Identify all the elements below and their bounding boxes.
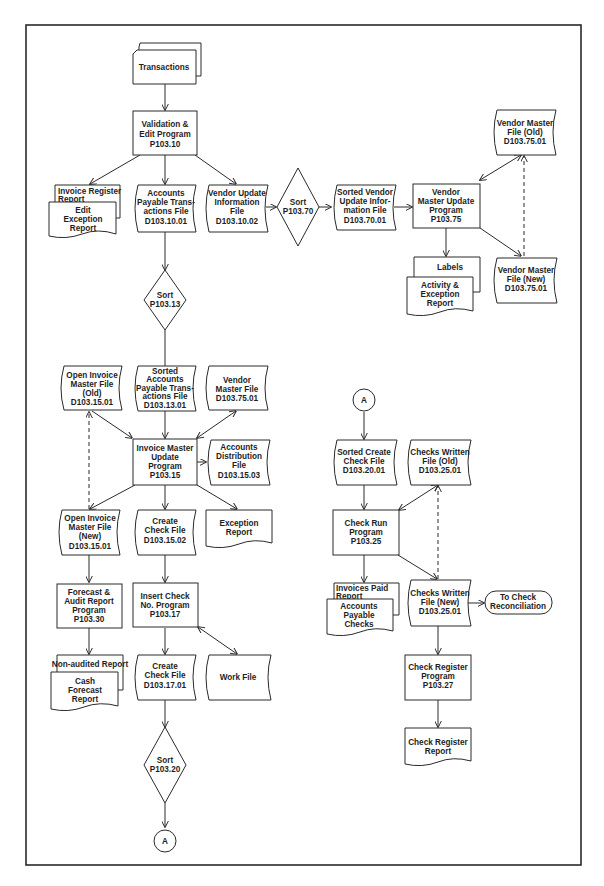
node-label-line: Accounts bbox=[340, 602, 378, 611]
node-label-line: Checks bbox=[344, 620, 374, 629]
node-label-line: D103.13.01 bbox=[144, 401, 187, 410]
node-label-line: Check Register bbox=[408, 663, 468, 672]
node-ap-transactions-file: Accounts Payable Trans- actions File D10… bbox=[135, 185, 196, 232]
node-label-line: Exception bbox=[63, 215, 102, 224]
node-label-line: File bbox=[232, 461, 247, 470]
node-label-line: A bbox=[361, 396, 367, 405]
node-activity-exception-report: Activity & Exception Report bbox=[407, 277, 473, 316]
node-label-line: P103.25 bbox=[351, 537, 382, 546]
node-label-line: Check Register bbox=[408, 738, 468, 747]
node-label-line: File bbox=[230, 207, 245, 216]
node-accounts-distribution-file: Accounts Distribution File D103.15.03 bbox=[208, 440, 270, 485]
node-open-invoice-master-new: Open Invoice Master File (New) D103.15.0… bbox=[59, 510, 120, 555]
node-label-line: Check Run bbox=[345, 519, 388, 528]
node-label-line: actions File bbox=[142, 392, 187, 401]
node-label-line: Vendor Master bbox=[498, 266, 555, 275]
node-label-line: Checks Written bbox=[410, 448, 469, 457]
node-label-line: Program bbox=[349, 528, 383, 537]
node-sorted-vendor-update-file: Sorted Vendor Update Infor- mation File … bbox=[334, 185, 396, 230]
node-label-line: Check File bbox=[344, 457, 385, 466]
node-label-line: (Old) bbox=[82, 389, 101, 398]
node-label-line: Accounts bbox=[220, 443, 258, 452]
node-vendor-master-file-new: Vendor Master File (New) D103.75.01 bbox=[494, 258, 557, 303]
node-check-run-program: Check Run Program P103.25 bbox=[333, 510, 399, 555]
node-label-line: P103.20 bbox=[150, 765, 181, 774]
node-check-register-report: Check Register Report bbox=[405, 728, 471, 766]
node-label-line: Update Infor- bbox=[340, 197, 391, 206]
node-label-line: Sorted Create bbox=[337, 448, 391, 457]
node-label-line: P103.13 bbox=[150, 300, 181, 309]
node-label-line: D103.17.01 bbox=[144, 681, 187, 690]
node-label-line: Edit bbox=[75, 206, 91, 215]
node-label-line: No. Program bbox=[140, 601, 189, 610]
node-label-line: P103.10 bbox=[150, 140, 181, 149]
node-sorted-create-check-file: Sorted Create Check File D103.20.01 bbox=[334, 440, 397, 485]
accounts-payable-flowchart: Transactions Validation & Edit Program P… bbox=[0, 0, 604, 886]
node-vendor-master-update-program: Vendor Master Update Program P103.75 bbox=[413, 184, 480, 228]
node-label-line: Validation & bbox=[142, 120, 189, 129]
node-sort-p10320: Sort P103.20 bbox=[144, 727, 186, 803]
node-label-line: D103.25.01 bbox=[419, 607, 462, 616]
node-validation-program: Validation & Edit Program P103.10 bbox=[133, 111, 197, 155]
node-edit-exception-report: Edit Exception Report bbox=[49, 202, 116, 238]
node-open-invoice-master-old: Open Invoice Master File (Old) D103.15.0… bbox=[61, 366, 122, 410]
node-label-line: Forecast & bbox=[68, 588, 110, 597]
node-label-line: Vendor Master bbox=[497, 119, 554, 128]
node-forecast-audit-program: Forecast & Audit Report Program P103.30 bbox=[57, 584, 122, 628]
node-sort-p10313: Sort P103.13 bbox=[144, 270, 186, 330]
node-label-line: Sort bbox=[157, 291, 174, 300]
node-label-line: Program bbox=[421, 672, 455, 681]
node-label-line: Open Invoice bbox=[66, 371, 118, 380]
node-label-line: actions File bbox=[143, 207, 188, 216]
node-label-line: Exception bbox=[420, 290, 459, 299]
node-label-line: Insert Check bbox=[140, 592, 190, 601]
node-label-line: Forecast bbox=[68, 686, 102, 695]
node-label-line: P103.15 bbox=[150, 471, 181, 480]
node-invoice-master-update-program: Invoice Master Update Program P103.15 bbox=[133, 439, 197, 485]
node-label-line: Cash bbox=[75, 677, 95, 686]
node-vendor-update-info-file: Vendor Update Information File D103.10.0… bbox=[206, 185, 268, 232]
node-label-line: A bbox=[162, 837, 168, 846]
node-label-line: File (New) bbox=[421, 598, 460, 607]
node-label-line: Sort bbox=[157, 756, 174, 765]
node-label-line: Edit Program bbox=[139, 130, 190, 139]
node-label-line: D103.25.01 bbox=[419, 466, 462, 475]
node-label-line: Master File bbox=[69, 523, 112, 532]
node-label-line: Work File bbox=[220, 673, 257, 682]
node-label-line: Master File bbox=[71, 380, 114, 389]
node-label-line: Accounts bbox=[147, 189, 185, 198]
node-label-line: Checks Written bbox=[410, 589, 469, 598]
node-label-line: Activity & bbox=[421, 281, 459, 290]
node-label-line: To Check bbox=[500, 593, 537, 602]
node-label-line: Program bbox=[72, 606, 106, 615]
node-label-line: Master Update bbox=[418, 197, 475, 206]
node-label-line: Vendor bbox=[223, 376, 252, 385]
node-label-line: Check File bbox=[145, 671, 186, 680]
node-sort-p10370: Sort P103.70 bbox=[277, 168, 319, 246]
node-work-file: Work File bbox=[206, 655, 271, 700]
node-label-line: Vendor Update bbox=[208, 189, 266, 198]
node-label-line: P103.70 bbox=[283, 207, 314, 216]
node-label-line: (New) bbox=[79, 532, 102, 541]
node-label-line: D103.15.03 bbox=[218, 471, 261, 480]
node-ap-checks: Accounts Payable Checks bbox=[327, 599, 393, 636]
node-transactions: Transactions bbox=[133, 43, 201, 84]
node-label-line: P103.75 bbox=[431, 215, 462, 224]
node-label-line: D103.15.02 bbox=[144, 536, 187, 545]
node-label-line: Non-audited Report bbox=[52, 660, 129, 669]
node-label-line: Program bbox=[429, 206, 463, 215]
node-label-line: Invoice Master bbox=[137, 444, 195, 453]
node-label-line: File (Old) bbox=[507, 128, 543, 137]
node-check-register-program: Check Register Program P103.27 bbox=[405, 655, 471, 700]
node-label-line: Report bbox=[70, 224, 97, 233]
node-label-line: mation File bbox=[343, 206, 387, 215]
node-label-line: File (New) bbox=[507, 275, 546, 284]
node-label-line: Report bbox=[72, 695, 99, 704]
node-checks-written-new: Checks Written File (New) D103.25.01 bbox=[408, 580, 471, 626]
node-label-line: Sort bbox=[290, 198, 307, 207]
node-label-line: Create bbox=[152, 517, 178, 526]
node-insert-check-program: Insert Check No. Program P103.17 bbox=[133, 583, 198, 627]
node-label-line: File (Old) bbox=[422, 457, 458, 466]
node-sorted-ap-transactions-file: Sorted Accounts Payable Trans- actions F… bbox=[135, 366, 196, 411]
node-label-line: Check File bbox=[145, 526, 186, 535]
